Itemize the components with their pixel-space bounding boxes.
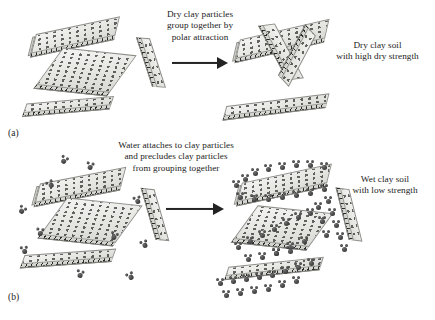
water-molecule-icon xyxy=(318,216,327,224)
water-molecule-icon xyxy=(251,168,260,176)
caption-line-2: with high dry strength xyxy=(321,51,434,62)
water-molecule-icon xyxy=(322,230,331,238)
water-molecule-icon xyxy=(281,266,290,274)
water-molecule-icon xyxy=(294,212,303,220)
caption-line-1: Dry clay particles xyxy=(139,9,261,20)
water-molecule-icon xyxy=(242,274,251,282)
water-molecule-icon xyxy=(59,154,71,165)
panel-label-b: (b) xyxy=(8,292,19,302)
caption-line-2: with low strength xyxy=(337,185,433,196)
water-molecule-icon xyxy=(258,230,267,238)
caption-line-1: Water attaches to clay particles xyxy=(93,140,259,151)
water-molecule-icon xyxy=(328,208,337,216)
water-molecule-icon xyxy=(292,160,301,168)
water-molecule-icon xyxy=(294,262,303,270)
water-molecule-icon xyxy=(255,272,264,280)
water-molecule-icon xyxy=(139,239,150,249)
water-molecule-icon xyxy=(307,258,316,266)
arrow-shaft xyxy=(166,208,213,210)
water-molecule-icon xyxy=(272,248,281,256)
arrow-head xyxy=(217,57,228,69)
water-molecule-icon xyxy=(264,194,273,202)
panel-a-process-arrow xyxy=(172,56,228,70)
clay-platelet-dry-left-3 xyxy=(136,37,166,87)
caption-line-1: Dry clay soil xyxy=(321,40,434,51)
clay-platelet-wet-left-4 xyxy=(20,249,117,269)
water-molecule-icon xyxy=(75,269,86,279)
water-molecule-icon xyxy=(125,271,136,282)
clay-platelet-dry-agg-4 xyxy=(222,93,329,120)
water-molecule-icon xyxy=(35,227,45,236)
water-molecule-icon xyxy=(236,192,245,200)
clay-platelet-wet-left-2 xyxy=(37,197,142,246)
arrow-shaft xyxy=(172,62,218,64)
water-molecule-icon xyxy=(246,236,255,244)
panel-label-a: (a) xyxy=(8,128,19,138)
water-molecule-icon xyxy=(278,192,287,200)
water-molecule-icon xyxy=(236,288,245,296)
water-molecule-icon xyxy=(314,202,323,210)
caption-line-1: Wet clay soil xyxy=(337,174,433,185)
water-molecule-icon xyxy=(17,204,29,216)
water-molecule-icon xyxy=(332,220,341,228)
water-molecule-icon xyxy=(232,180,241,188)
caption-line-2: and precludes clay particles xyxy=(93,151,259,162)
water-molecule-icon xyxy=(216,278,225,286)
water-molecule-icon xyxy=(132,195,142,205)
panel-a-result-caption: Dry clay soil with high dry strength xyxy=(321,40,434,63)
water-molecule-icon xyxy=(264,164,273,172)
caption-line-2: group together by xyxy=(139,20,261,31)
water-molecule-icon xyxy=(234,242,243,250)
water-molecule-icon xyxy=(324,196,333,204)
panel-b-process-arrow xyxy=(166,202,224,216)
water-molecule-icon xyxy=(258,252,267,260)
water-molecule-icon xyxy=(278,162,287,170)
water-molecule-icon xyxy=(292,190,301,198)
water-molecule-icon xyxy=(336,232,345,240)
water-molecule-icon xyxy=(250,194,259,202)
water-molecule-icon xyxy=(85,161,96,171)
water-molecule-icon xyxy=(244,254,253,262)
water-molecule-icon xyxy=(306,160,315,168)
water-molecule-icon xyxy=(222,290,231,298)
water-molecule-icon xyxy=(320,184,329,192)
water-molecule-icon xyxy=(286,246,295,254)
water-molecule-icon xyxy=(292,276,301,284)
water-molecule-icon xyxy=(340,244,349,252)
water-molecule-icon xyxy=(268,270,277,278)
water-molecule-icon xyxy=(306,188,315,196)
clay-particle-diagram: Dry clay particles group together by pol… xyxy=(0,0,435,320)
water-molecule-icon xyxy=(20,246,30,255)
water-molecule-icon xyxy=(320,162,329,170)
arrow-head xyxy=(213,203,224,215)
water-molecule-icon xyxy=(282,218,291,226)
water-molecule-icon xyxy=(270,224,279,232)
water-molecule-icon xyxy=(241,174,250,182)
water-molecule-icon xyxy=(300,236,309,244)
water-molecule-icon xyxy=(278,280,287,288)
clay-platelet-dry-left-4 xyxy=(22,96,114,117)
clay-platelet-dry-left-2 xyxy=(33,48,136,97)
water-molecule-icon xyxy=(264,284,273,292)
panel-b-result-caption: Wet clay soil with low strength xyxy=(337,174,433,197)
water-molecule-icon xyxy=(250,286,259,294)
water-molecule-icon xyxy=(229,276,238,284)
